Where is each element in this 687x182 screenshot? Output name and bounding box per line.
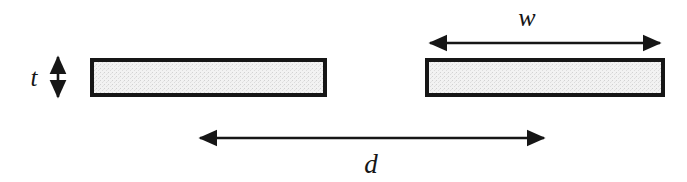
thickness-label: t [31,64,39,91]
separation-label: d [364,149,378,179]
width-label: w [518,3,536,32]
dimension-diagram: t w d [0,0,687,182]
width-dimension: w [430,3,660,43]
left-bar [92,60,325,95]
separation-dimension: d [200,138,544,179]
diagram-canvas: t w d [0,0,687,182]
thickness-dimension: t [31,57,58,97]
right-bar [427,60,663,95]
bars-group [92,60,663,95]
